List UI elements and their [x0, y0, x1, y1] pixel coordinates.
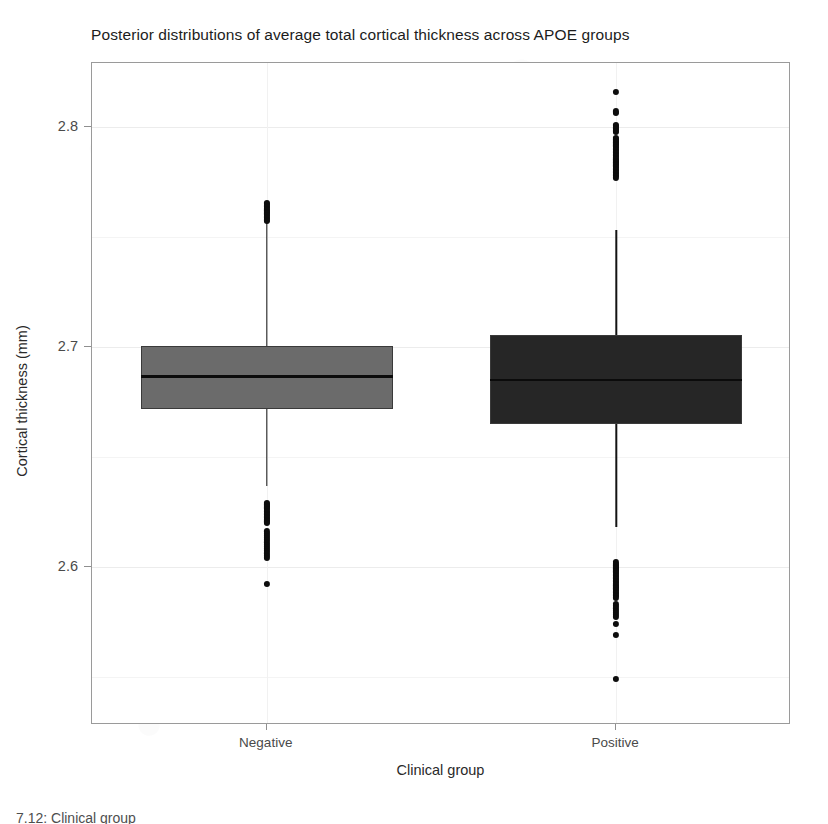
outlier-point — [613, 676, 619, 682]
x-tick-label: Positive — [592, 735, 639, 750]
gridline-minor — [92, 237, 789, 238]
y-tick-label: 2.8 — [58, 118, 78, 134]
x-axis-title: Clinical group — [91, 762, 790, 778]
bottom-caption: 7.12: Clinical group — [16, 810, 136, 824]
outlier-point — [264, 581, 270, 587]
x-tick-mark — [266, 724, 267, 730]
x-tick-label: Negative — [239, 735, 292, 750]
gridline-major — [92, 567, 789, 568]
outlier-point — [264, 555, 270, 561]
y-tick-mark — [84, 126, 91, 127]
outlier-point — [613, 621, 619, 627]
y-axis-tick-labels: 2.62.72.8 — [0, 62, 78, 724]
gridline-minor — [92, 457, 789, 458]
outlier-point — [264, 520, 270, 526]
outlier-point — [613, 595, 619, 601]
outlier-point — [613, 614, 619, 620]
outlier-point — [613, 175, 619, 181]
box-plot-median — [490, 379, 742, 381]
outlier-point — [613, 88, 619, 94]
outlier-point — [613, 632, 619, 638]
gridline-major — [92, 127, 789, 128]
y-tick-mark — [84, 566, 91, 567]
outlier-point — [613, 110, 619, 116]
x-tick-mark — [615, 724, 616, 730]
y-axis-title: Cortical thickness (mm) — [14, 236, 30, 566]
gridline-minor — [92, 677, 789, 678]
y-tick-mark — [84, 346, 91, 347]
plot-panel — [91, 62, 790, 724]
outlier-point — [264, 218, 270, 224]
box-plot-median — [141, 375, 393, 377]
y-tick-label: 2.7 — [58, 338, 78, 354]
chart-title: Posterior distributions of average total… — [91, 26, 630, 44]
chart-figure: Posterior distributions of average total… — [0, 0, 828, 824]
y-tick-label: 2.6 — [58, 558, 78, 574]
